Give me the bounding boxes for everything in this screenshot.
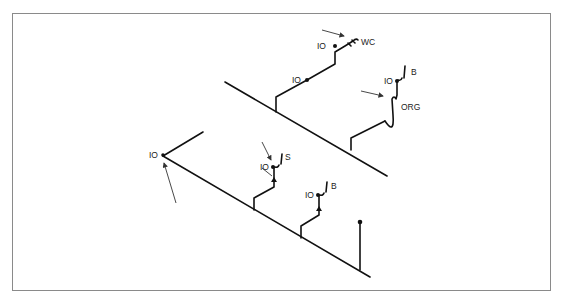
- pointer-arrow-s: [262, 142, 271, 160]
- label-io-upper-mid: IO: [292, 75, 301, 85]
- label-io-lower-b: IO: [305, 190, 314, 200]
- stack-cap-dot: [358, 220, 363, 225]
- pointer-arrow-wc: [322, 30, 344, 36]
- label-io-upper-b: IO: [384, 76, 393, 86]
- label-s: S: [285, 152, 291, 162]
- upper-drain-line: [225, 82, 387, 176]
- vertical-stack: [358, 220, 363, 270]
- label-wc: WC: [361, 37, 375, 47]
- label-io-top: IO: [317, 41, 326, 51]
- cleanout-dot: [305, 78, 309, 82]
- cleanout-dot: [161, 153, 165, 157]
- label-io-left: IO: [149, 150, 158, 160]
- cleanout-dot: [333, 44, 337, 48]
- plumbing-isometric-diagram: WC IO IO ORG IO B IO IO S IO B: [0, 0, 564, 299]
- label-b-upper: B: [411, 67, 417, 77]
- label-b-lower: B: [331, 181, 337, 191]
- lower-drain-line: [161, 132, 370, 277]
- label-org: ORG: [401, 102, 420, 112]
- pointer-arrow-org: [361, 91, 383, 96]
- label-io-s: IO: [260, 162, 269, 172]
- upper-branch-org: [351, 66, 405, 150]
- pointer-arrow-left: [164, 163, 176, 203]
